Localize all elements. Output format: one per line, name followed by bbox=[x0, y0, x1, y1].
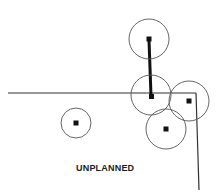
diagram-caption: UNPLANNED bbox=[76, 163, 134, 173]
connector-edge-top-middle bbox=[149, 40, 151, 96]
node-mark-middle bbox=[149, 94, 154, 99]
node-mark-left bbox=[74, 121, 79, 126]
unplanned-diagram: UNPLANNED bbox=[0, 0, 220, 195]
node-mark-right bbox=[187, 99, 192, 104]
boundary-vertical-line bbox=[196, 93, 199, 190]
node-mark-bottom bbox=[164, 127, 169, 132]
node-mark-top bbox=[147, 37, 152, 42]
